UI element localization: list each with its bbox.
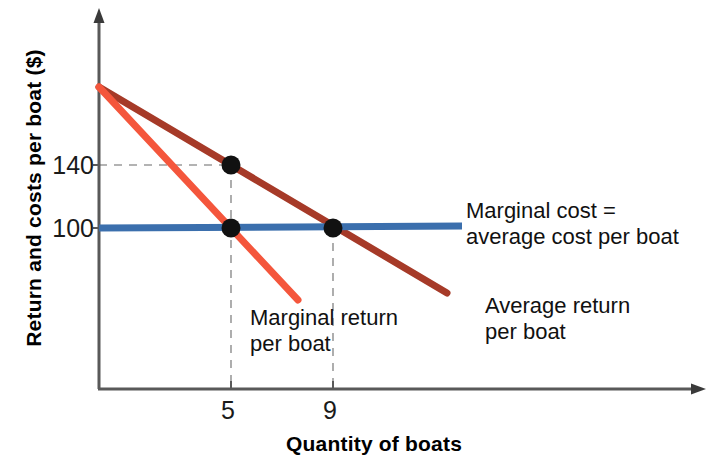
annotation-average-return: Average return per boat [485,293,630,345]
data-point-5-100 [222,219,241,238]
x-axis-arrow-icon [691,384,706,395]
annotation-marginal-return: Marginal return per boat [250,305,398,357]
annotation-marginal-cost-line1: Marginal cost = [466,198,679,224]
series-line-marginal-return [99,87,298,300]
y-axis-tick-label-100: 100 [52,214,94,243]
annotation-marginal-return-line2: per boat [250,331,398,357]
y-axis-tick-label-140: 140 [52,151,94,180]
annotation-marginal-return-line1: Marginal return [250,305,398,331]
data-point-9-100 [324,219,343,238]
data-point-5-140 [222,156,241,175]
annotation-marginal-cost-line2: average cost per boat [466,224,679,250]
series-lines [99,87,462,300]
x-axis-title: Quantity of boats [286,432,462,456]
economics-chart: 140 100 5 9 Quantity of boats Return and… [0,0,711,463]
series-line-average-return [99,87,447,293]
y-axis-title: Return and costs per boat ($) [22,33,46,363]
annotation-average-return-line1: Average return [485,293,630,319]
y-axis-arrow-icon [94,8,105,23]
x-axis-tick-label-5: 5 [221,396,235,425]
annotation-average-return-line2: per boat [485,319,630,345]
series-line-marginal-cost [99,226,462,228]
annotation-marginal-cost: Marginal cost = average cost per boat [466,198,679,250]
x-axis-tick-label-9: 9 [323,396,337,425]
